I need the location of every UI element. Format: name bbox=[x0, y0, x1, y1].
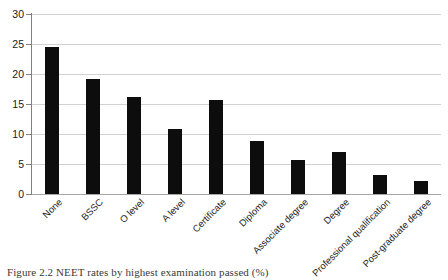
y-tick-15 bbox=[26, 104, 31, 105]
y-tick-25 bbox=[26, 44, 31, 45]
y-tick-label: 5 bbox=[0, 159, 24, 170]
bar bbox=[209, 100, 223, 194]
figure-neet-rates-by-examination: 051015202530 NoneBSSCO levelA levelCerti… bbox=[0, 0, 448, 280]
y-tick-5 bbox=[26, 164, 31, 165]
y-tick-label: 15 bbox=[0, 99, 24, 110]
x-axis-label-text: BSSC bbox=[80, 197, 105, 222]
plot-area bbox=[32, 14, 441, 194]
y-tick-30 bbox=[26, 14, 31, 15]
x-axis-label-5: Diploma bbox=[237, 197, 268, 228]
gridline-25 bbox=[32, 44, 441, 45]
y-tick-10 bbox=[26, 134, 31, 135]
bar bbox=[332, 152, 346, 194]
x-axis-label-text: Professional qualification bbox=[310, 197, 391, 278]
bar bbox=[414, 181, 428, 194]
y-tick-label: 30 bbox=[0, 9, 24, 20]
bar bbox=[291, 160, 305, 194]
x-axis-label-4: Certificate bbox=[191, 197, 228, 234]
x-axis-label-0: None bbox=[41, 197, 64, 220]
bar bbox=[86, 79, 100, 194]
x-axis-label-text: None bbox=[41, 197, 64, 220]
bar bbox=[250, 141, 264, 194]
x-axis-label-text: Diploma bbox=[237, 197, 268, 228]
bar bbox=[45, 47, 59, 194]
x-axis-label-text: A level bbox=[160, 197, 187, 224]
x-axis-label-3: A level bbox=[160, 197, 187, 224]
gridline-0 bbox=[32, 194, 441, 195]
y-tick-label: 0 bbox=[0, 189, 24, 200]
gridline-20 bbox=[32, 74, 441, 75]
bar bbox=[373, 175, 387, 194]
bar bbox=[127, 97, 141, 194]
y-tick-label: 25 bbox=[0, 39, 24, 50]
figure-caption: Figure 2.2 NEET rates by highest examina… bbox=[7, 266, 269, 278]
bar bbox=[168, 129, 182, 194]
x-axis-label-7: Degree bbox=[322, 197, 351, 226]
x-axis-label-1: BSSC bbox=[80, 197, 105, 222]
y-tick-label: 20 bbox=[0, 69, 24, 80]
y-tick-label: 10 bbox=[0, 129, 24, 140]
gridline-30 bbox=[32, 14, 441, 15]
x-axis-label-8: Professional qualification bbox=[310, 197, 391, 278]
x-axis-label-text: Certificate bbox=[191, 197, 228, 234]
x-axis-label-2: O level bbox=[118, 197, 146, 225]
x-axis-label-text: Degree bbox=[322, 197, 351, 226]
x-axis-label-text: O level bbox=[118, 197, 146, 225]
y-tick-20 bbox=[26, 74, 31, 75]
y-tick-0 bbox=[26, 194, 31, 195]
